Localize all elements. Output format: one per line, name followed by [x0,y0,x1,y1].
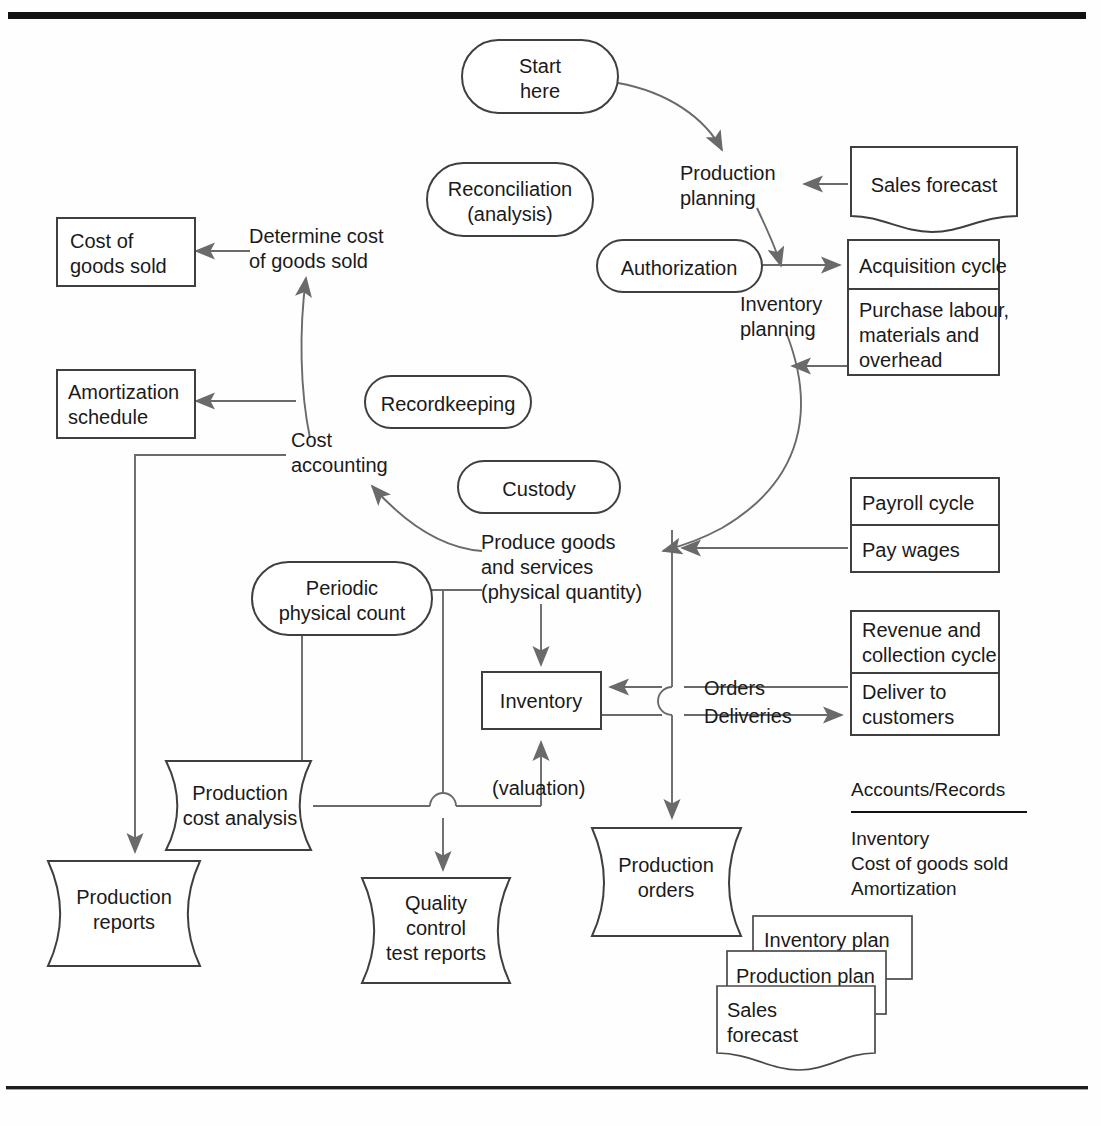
node-production-planning[interactable]: Production planning [680,162,776,209]
node-production-cost-analysis-report[interactable]: Production cost analysis [166,761,311,850]
inventory-planning-line1: Inventory [740,293,822,315]
inventory-plan-label: Inventory plan [764,929,890,951]
node-revenue-collection-cycle-box[interactable]: Revenue and collection cycle [851,611,999,673]
cost-of-goods-sold-line1: Cost of [70,230,134,252]
legend-item-2: Amortization [851,878,957,899]
legend-item-0: Inventory [851,828,930,849]
node-inventory-box[interactable]: Inventory [482,672,601,729]
node-sales-forecast-stack-document[interactable]: Sales forecast [717,986,875,1070]
top-rule [8,12,1086,19]
recordkeeping-label: Recordkeeping [381,393,516,415]
node-quality-control-test-reports-report[interactable]: Quality control test reports [362,878,510,983]
node-production-orders-report[interactable]: Production orders [592,828,741,936]
production-planning-line1: Production [680,162,776,184]
start-here-line2: here [520,80,560,102]
quality-control-line3: test reports [386,942,486,964]
connector-hop-orders [658,687,672,715]
deliver-line1: Deliver to [862,681,946,703]
amortization-line1: Amortization [68,381,179,403]
quality-control-line1: Quality [405,892,467,914]
production-planning-line2: planning [680,187,756,209]
node-pay-wages-box[interactable]: Pay wages [851,525,999,572]
bottom-rule [6,1086,1088,1089]
inventory-planning-line2: planning [740,318,816,340]
purchase-line3: overhead [859,349,942,371]
node-custody[interactable]: Custody [458,461,620,513]
purchase-line2: materials and [859,324,979,346]
revenue-cycle-line1: Revenue and [862,619,981,641]
revenue-cycle-line2: collection cycle [862,644,997,666]
cost-accounting-line2: accounting [291,454,388,476]
reconciliation-line2: (analysis) [467,203,553,225]
sales-forecast-label: Sales forecast [871,174,998,196]
production-orders-line2: orders [638,879,695,901]
node-determine-cost-of-goods-sold[interactable]: Determine cost of goods sold [249,225,384,272]
legend-item-1: Cost of goods sold [851,853,1008,874]
production-plan-label: Production plan [736,965,875,987]
connector-inventory-planning-to-produce-goods [663,332,801,551]
cost-accounting-line1: Cost [291,429,333,451]
stack-sales-forecast-line2: forecast [727,1024,799,1046]
connector-cost-accounting-to-determine-cost [301,278,310,438]
production-cost-analysis-line2: cost analysis [183,807,298,829]
node-payroll-cycle-box[interactable]: Payroll cycle [851,478,999,525]
diagram-canvas: Start here Reconciliation (analysis) Aut… [0,0,1101,1126]
start-here-line1: Start [519,55,562,77]
node-periodic-physical-count[interactable]: Periodic physical count [252,562,432,635]
production-cost-analysis-line1: Production [192,782,288,804]
connector-produce-goods-to-quality-control-seg1 [443,590,482,794]
accounts-records-legend: Accounts/Records Inventory Cost of goods… [851,779,1027,899]
legend-heading: Accounts/Records [851,779,1005,800]
deliveries-label: Deliveries [704,705,792,727]
cost-of-goods-sold-line2: goods sold [70,255,167,277]
custody-label: Custody [502,478,575,500]
connector-hop-quality-control [430,793,456,806]
node-sales-forecast-document[interactable]: Sales forecast [851,147,1017,232]
purchase-line1: Purchase labour, [859,299,1009,321]
node-deliver-to-customers-box[interactable]: Deliver to customers [851,673,999,735]
connector-start-to-production-planning [618,83,722,150]
stack-sales-forecast-line1: Sales [727,999,777,1021]
valuation-label: (valuation) [492,777,585,799]
node-purchase-box[interactable]: Purchase labour, materials and overhead [848,289,1009,375]
node-produce-goods-and-services[interactable]: Produce goods and services (physical qua… [481,531,642,603]
inventory-label: Inventory [500,690,582,712]
periodic-count-line2: physical count [279,602,406,624]
authorization-label: Authorization [621,257,738,279]
node-authorization[interactable]: Authorization [597,240,762,292]
production-reports-line2: reports [93,911,155,933]
node-recordkeeping[interactable]: Recordkeeping [365,376,531,428]
node-cost-accounting[interactable]: Cost accounting [291,429,388,476]
periodic-count-line1: Periodic [306,577,378,599]
produce-goods-line1: Produce goods [481,531,616,553]
production-reports-line1: Production [76,886,172,908]
quality-control-line2: control [406,917,466,939]
node-reconciliation[interactable]: Reconciliation (analysis) [427,163,593,236]
determine-cost-line1: Determine cost [249,225,384,247]
payroll-cycle-label: Payroll cycle [862,492,974,514]
node-inventory-planning[interactable]: Inventory planning [740,293,822,340]
node-acquisition-cycle-box[interactable]: Acquisition cycle [848,240,1007,289]
node-start-here[interactable]: Start here [462,40,618,113]
node-cost-of-goods-sold-box[interactable]: Cost of goods sold [57,218,195,286]
produce-goods-line3: (physical quantity) [481,581,642,603]
acquisition-cycle-label: Acquisition cycle [859,255,1007,277]
node-production-reports-report[interactable]: Production reports [48,861,200,966]
produce-goods-line2: and services [481,556,593,578]
determine-cost-line2: of goods sold [249,250,368,272]
production-orders-line1: Production [618,854,714,876]
amortization-line2: schedule [68,406,148,428]
reconciliation-line1: Reconciliation [448,178,573,200]
orders-label: Orders [704,677,765,699]
node-amortization-schedule-box[interactable]: Amortization schedule [57,370,195,438]
deliver-line2: customers [862,706,954,728]
pay-wages-label: Pay wages [862,539,960,561]
